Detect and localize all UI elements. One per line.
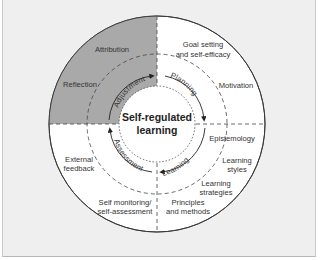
label-goal-line2: and self-efficacy	[176, 50, 231, 59]
label-monitoring-line1: Self monitoring/	[99, 198, 153, 207]
label-goal-line1: Goal setting	[183, 40, 224, 49]
label-styles-line1: Learning	[222, 156, 252, 165]
center-title-line1: Self-regulated	[122, 111, 192, 123]
label-reflection: Reflection	[63, 80, 97, 89]
label-strategies-line2: strategies	[200, 188, 233, 197]
center-title-line2: learning	[137, 124, 178, 136]
label-principles-line1: Principles	[172, 198, 205, 207]
label-monitoring-line2: self-assessment	[98, 207, 154, 216]
label-external-line2: feedback	[64, 164, 95, 173]
label-strategies-line1: Learning	[201, 179, 231, 188]
label-attribution: Attribution	[95, 45, 129, 54]
label-external-line1: External	[65, 155, 93, 164]
label-motivation: Motivation	[219, 81, 254, 90]
label-principles-line2: and methods	[166, 207, 210, 216]
srl-diagram: Planning Adjustment Learning Assessment …	[0, 0, 320, 260]
label-epistemology: Epistemology	[209, 134, 255, 143]
label-styles-line2: styles	[227, 165, 247, 174]
